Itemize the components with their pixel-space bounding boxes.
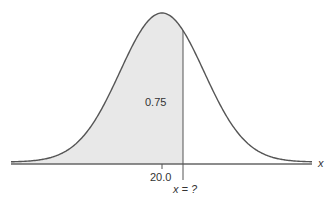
x-axis-label: x bbox=[317, 157, 324, 169]
area-label: 0.75 bbox=[145, 96, 166, 108]
unknown-x-label: x = ? bbox=[172, 183, 198, 195]
normal-distribution-chart: 0.75 20.0 x = ? x bbox=[0, 0, 332, 202]
shaded-area bbox=[11, 13, 183, 164]
mean-tick-label: 20.0 bbox=[150, 171, 171, 183]
